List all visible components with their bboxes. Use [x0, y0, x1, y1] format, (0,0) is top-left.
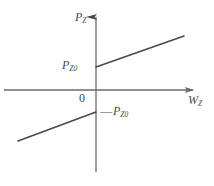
y-axis-label-subscript: Z	[82, 16, 86, 25]
figure-canvas: PZ WZ PZ0 —PZ0 0	[0, 0, 214, 186]
x-axis-label-base: W	[188, 93, 198, 107]
y-axis-label: PZ	[75, 11, 86, 25]
negative-intercept-subscript: Z0	[120, 110, 128, 119]
negative-intercept-label: —PZ0	[100, 105, 128, 119]
coordinate-plot	[0, 0, 214, 186]
origin-label: 0	[79, 92, 85, 104]
lower-branch-line	[18, 112, 96, 141]
x-axis-label: WZ	[188, 94, 202, 108]
positive-intercept-label: PZ0	[62, 59, 77, 73]
minus-sign: —	[100, 104, 112, 118]
positive-intercept-subscript: Z0	[69, 64, 77, 73]
upper-branch-line	[96, 36, 184, 67]
x-axis-label-subscript: Z	[198, 99, 202, 108]
